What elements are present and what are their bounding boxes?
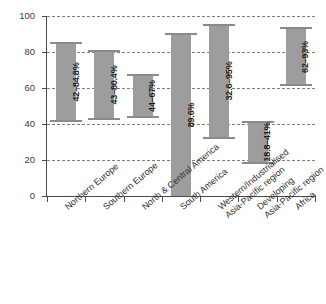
bar-cap-top (280, 27, 312, 29)
y-tick-label-0: 0 (9, 191, 35, 201)
bar-cap-top (88, 50, 120, 52)
y-axis-line (46, 16, 47, 197)
bar-cap-bottom (88, 118, 120, 120)
bar-cap-bottom (203, 137, 235, 139)
bar-value-label: 43–80.4% (109, 65, 119, 104)
bar-cap-top (127, 74, 159, 76)
y-tick-label-100: 100 (9, 11, 35, 21)
bar-cap-top (50, 42, 82, 44)
gridline-100 (47, 16, 315, 17)
bar-value-label: 42–84.8% (71, 62, 81, 101)
bar-cap-bottom (280, 84, 312, 86)
bar-value-label: 44–67% (147, 80, 157, 112)
bar-value-label: 89.6% (186, 103, 196, 128)
bar-value-label: 18.8–41% (262, 123, 272, 162)
y-tick-label-40: 40 (9, 119, 35, 129)
bar-cap-top (165, 33, 197, 35)
x-tick-mark-0 (47, 197, 48, 202)
bar-value-label: 32.6–95% (224, 62, 234, 101)
bar-cap-bottom (127, 116, 159, 118)
bar-cap-bottom (50, 120, 82, 122)
bar-value-label: 62–93% (300, 41, 310, 73)
y-tick-label-20: 20 (9, 155, 35, 165)
y-tick-label-80: 80 (9, 47, 35, 57)
y-tick-label-60: 60 (9, 83, 35, 93)
bar-cap-top (203, 24, 235, 26)
